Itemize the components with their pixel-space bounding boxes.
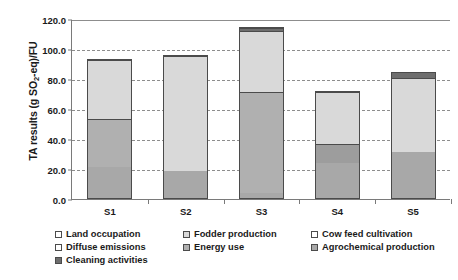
plot-area: 0.020.040.060.080.0100.0120.0 S1S2S3S4S5 [71,20,450,200]
legend-swatch-icon [183,244,190,251]
x-tick-label-s4: S4 [331,206,343,217]
y-tick-label: 0.0 [53,195,66,206]
x-tick-mark [451,199,452,204]
y-tick-label: 20.0 [48,165,67,176]
legend-item[interactable]: Energy use [183,243,311,252]
bar-segment[interactable] [240,92,283,193]
x-tick-label-s2: S2 [180,206,192,217]
legend-swatch-icon [183,231,190,238]
legend-label: Cow feed cultivation [322,230,412,239]
legend-swatch-icon [55,244,62,251]
x-tick-label-s1: S1 [104,206,116,217]
bar-segment[interactable] [164,56,207,171]
bar-segment[interactable] [316,92,359,144]
bar-segment[interactable] [88,60,131,119]
bar-segment[interactable] [88,119,131,166]
bar-group-s5[interactable] [391,20,436,199]
chart-legend: Land occupationFodder productionCow feed… [55,228,455,267]
y-tick-label: 60.0 [48,105,67,116]
x-tick-label-s5: S5 [407,206,419,217]
legend-swatch-icon [311,244,318,251]
legend-item[interactable]: Fodder production [183,230,311,239]
y-tick-label: 40.0 [48,135,67,146]
bar-segment[interactable] [164,171,207,198]
y-tick-label: 120.0 [42,15,66,26]
y-axis-title-pre: TA results (g SO [27,81,39,161]
legend-item[interactable]: Diffuse emissions [55,243,183,252]
ta-results-chart: TA results (g SO2-eq)/FU 0.020.040.060.0… [0,0,458,280]
legend-label: Land occupation [66,230,140,239]
y-tick-mark [68,200,72,201]
legend-label: Agrochemical production [322,243,435,252]
x-tick-label-s3: S3 [256,206,268,217]
bar-segment[interactable] [316,144,359,163]
legend-item[interactable]: Agrochemical production [311,243,458,252]
legend-item[interactable]: Land occupation [55,230,183,239]
legend-swatch-icon [55,257,62,264]
x-tick-mark [224,199,225,204]
y-axis-title-post: -eq)/FU [27,41,39,76]
bar-segment[interactable] [88,167,131,198]
bar-segment[interactable] [392,78,435,153]
bar-group-s4[interactable] [315,20,360,199]
legend-label: Fodder production [194,230,277,239]
legend-label: Energy use [194,243,244,252]
y-axis-title-subscript: 2 [32,77,41,81]
x-tick-mark [375,199,376,204]
x-tick-mark [299,199,300,204]
bar-group-s1[interactable] [87,20,132,199]
bar-segment[interactable] [316,163,359,198]
bar-stack[interactable] [391,72,436,200]
bar-segment[interactable] [240,31,283,92]
bar-stack[interactable] [315,91,360,199]
bar-group-s2[interactable] [163,20,208,199]
legend-item[interactable]: Cleaning activities [55,256,183,265]
bar-stack[interactable] [87,59,132,199]
legend-label: Cleaning activities [66,256,148,265]
legend-swatch-icon [55,231,62,238]
bar-stack[interactable] [163,55,208,199]
legend-swatch-icon [311,231,318,238]
bars-layer [72,20,450,199]
bar-group-s3[interactable] [239,20,284,199]
bar-segment[interactable] [240,193,283,198]
x-tick-mark [148,199,149,204]
legend-label: Diffuse emissions [66,243,146,252]
y-axis-title: TA results (g SO2-eq)/FU [27,6,39,196]
bar-stack[interactable] [239,27,284,200]
y-tick-label: 80.0 [48,75,67,86]
y-tick-label: 100.0 [42,45,66,56]
bar-segment[interactable] [392,152,435,198]
legend-item[interactable]: Cow feed cultivation [311,230,458,239]
